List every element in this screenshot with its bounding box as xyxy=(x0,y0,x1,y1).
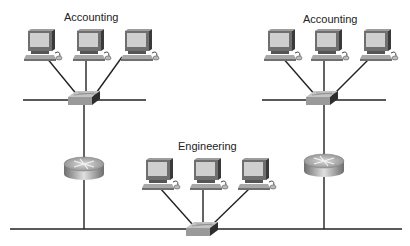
switch-icon xyxy=(306,91,338,105)
pc-icon xyxy=(73,29,111,61)
pc-icon xyxy=(24,29,62,61)
pc-icon xyxy=(121,29,159,61)
pc-icon xyxy=(238,158,276,190)
network-diagram xyxy=(0,0,410,246)
accounting-right-group xyxy=(262,29,398,229)
accounting-left-group xyxy=(23,29,159,229)
switch-icon xyxy=(186,222,218,236)
router-icon xyxy=(64,157,104,180)
pc-icon xyxy=(142,158,180,190)
pc-icon xyxy=(264,29,302,61)
pc-icon xyxy=(360,29,398,61)
pc-icon xyxy=(190,158,228,190)
switch-icon xyxy=(68,91,100,105)
router-icon xyxy=(304,154,344,177)
accounting-right-label: Accounting xyxy=(303,13,357,25)
engineering-label: Engineering xyxy=(178,140,237,152)
pc-icon xyxy=(311,29,349,61)
accounting-left-label: Accounting xyxy=(64,11,118,23)
engineering-group xyxy=(142,158,276,236)
